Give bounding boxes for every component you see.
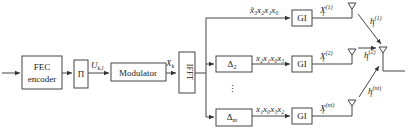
delay-2-block: Δ2 (216, 56, 252, 72)
branch-2-sequence: x₂x₁x₀x₃ (255, 53, 285, 63)
delay-n-block: Δnt (216, 109, 252, 126)
ellipsis: ⋮ (228, 84, 237, 94)
fec-encoder-block: FEC encoder (22, 56, 62, 89)
svg-text:GI: GI (297, 13, 307, 23)
svg-text:GI: GI (297, 111, 307, 121)
interleaver-block: Π (74, 60, 88, 88)
ofdm-cdd-transmitter-diagram: FEC encoder Π Uk,l Modulator Xk IFFT x̃₃… (0, 0, 415, 137)
ifft-block: IFFT (179, 52, 195, 93)
x-k-label: Xk (165, 58, 175, 69)
tx-antenna-1-icon (348, 3, 356, 9)
branch-n-sequence: x₁x₀x₃x₂ (255, 104, 285, 114)
tx-antenna-n-icon (348, 100, 356, 106)
svg-text:IFFT: IFFT (185, 64, 194, 81)
output-2-line (312, 55, 352, 64)
output-n-label: X(nt)t (319, 102, 334, 115)
u-kl-label: Uk,l (91, 60, 104, 71)
svg-text:Modulator: Modulator (119, 68, 157, 78)
channel-n-label: h(nt)t (368, 85, 381, 98)
rx-antenna-icon (379, 47, 387, 53)
svg-text:FEC: FEC (34, 62, 51, 72)
gi-block-2: GI (292, 56, 312, 72)
svg-text:Π: Π (78, 69, 85, 79)
channel-1-label: h(1)t (370, 15, 382, 28)
branch-1-sequence: x̃₃x₂x₁x₀ (249, 5, 279, 15)
tx-antenna-2-icon (348, 49, 356, 55)
rx-output-line (383, 53, 405, 71)
gi-block-n: GI (292, 108, 312, 124)
output-1-label: X(1)t (319, 4, 333, 17)
modulator-block: Modulator (111, 63, 166, 81)
channel-2-label: h(2)t (364, 49, 376, 62)
gi-block-1: GI (292, 10, 312, 26)
svg-text:GI: GI (297, 59, 307, 69)
output-2-label: X(2)t (319, 50, 333, 63)
svg-text:encoder: encoder (28, 74, 56, 84)
